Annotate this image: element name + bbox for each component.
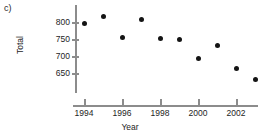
x-tick-2002 [236,99,238,106]
x-tick-label-1996: 1996 [107,108,137,118]
data-point [101,14,106,19]
y-tick-800 [72,22,79,24]
x-tick-2000 [198,99,200,106]
data-point [177,37,182,42]
data-point [215,43,220,48]
data-point [82,21,87,26]
x-tick-1994 [84,99,86,106]
x-tick-label-1994: 1994 [69,108,99,118]
data-point [120,35,125,40]
scatter-plot: 650700750800 19941996199820002002 Total … [0,0,260,139]
data-point [158,36,163,41]
y-axis-title: Total [15,21,25,69]
data-point [196,56,201,61]
x-tick-label-2002: 2002 [221,108,251,118]
x-tick-1996 [122,99,124,106]
x-tick-label-1998: 1998 [145,108,175,118]
x-axis-line [73,105,258,107]
y-axis-tick-labels: 650700750800 [42,0,70,139]
y-tick-label-750: 750 [44,35,70,44]
y-tick-label-800: 800 [44,18,70,27]
x-axis-title: Year [100,122,160,132]
data-point [253,77,258,82]
figure-panel: c) 650700750800 19941996199820002002 Tot… [0,0,260,139]
y-tick-label-700: 700 [44,52,70,61]
y-axis-line [75,5,77,93]
x-tick-1998 [160,99,162,106]
data-point [234,66,239,71]
y-tick-750 [72,39,79,41]
x-tick-label-2000: 2000 [183,108,213,118]
y-tick-label-650: 650 [44,69,70,78]
y-tick-700 [72,56,79,58]
y-tick-650 [72,73,79,75]
data-point [139,17,144,22]
